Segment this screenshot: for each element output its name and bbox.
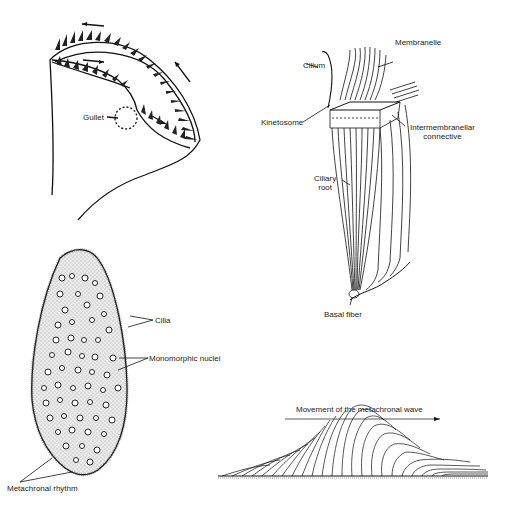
- figure: Gullet: [0, 0, 526, 508]
- metachronal-wave-drawing: [0, 0, 526, 508]
- metachronal-wave-label: Movement of the metachronal wave: [296, 405, 423, 414]
